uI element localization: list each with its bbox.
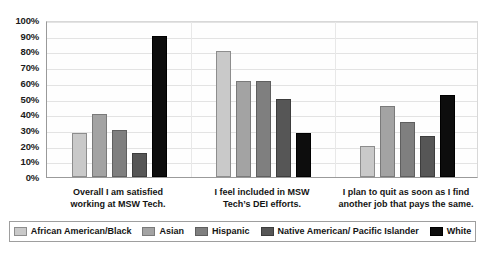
bar-group [47, 22, 191, 177]
legend-item[interactable]: Hispanic [195, 227, 250, 236]
legend-swatch-icon [430, 227, 443, 236]
bar [256, 81, 271, 177]
legend-label: Asian [159, 227, 184, 236]
legend-swatch-icon [195, 227, 208, 236]
bar [216, 51, 231, 177]
category-label-line: I plan to quit as soon as I find [334, 186, 478, 198]
bar [72, 133, 87, 177]
bar-group [191, 22, 335, 177]
legend-item[interactable]: Asian [142, 227, 184, 236]
legend-item[interactable]: African American/Black [14, 227, 132, 236]
bar [132, 153, 147, 177]
bar [92, 114, 107, 177]
legend-label: White [447, 227, 472, 236]
y-axis-tick-label: 0% [0, 173, 39, 183]
legend-swatch-icon [14, 227, 27, 236]
bar [440, 95, 455, 177]
legend-item[interactable]: Native American/ Pacific Islander [261, 227, 419, 236]
category-label: I feel included in MSWTech’s DEI efforts… [190, 186, 334, 210]
legend-label: Hispanic [212, 227, 250, 236]
bar [296, 133, 311, 177]
y-axis-tick-label: 10% [0, 158, 39, 168]
plot-wrapper: 0%10%20%30%40%50%60%70%80%90%100% [0, 16, 486, 184]
chart-legend: African American/BlackAsianHispanicNativ… [9, 221, 476, 242]
legend-item[interactable]: White [430, 227, 472, 236]
category-label-line: Overall I am satisfied [46, 186, 190, 198]
legend-swatch-icon [261, 227, 274, 236]
bar [420, 136, 435, 177]
category-label-line: Tech’s DEI efforts. [190, 198, 334, 210]
bar [236, 81, 251, 177]
y-axis-tick-label: 20% [0, 142, 39, 152]
bar [360, 146, 375, 177]
y-axis-tick-label: 30% [0, 126, 39, 136]
y-axis-tick-label: 60% [0, 79, 39, 89]
y-axis-tick-label: 70% [0, 63, 39, 73]
y-axis-tick-label: 80% [0, 48, 39, 58]
bar [152, 36, 167, 177]
y-axis-tick-label: 40% [0, 110, 39, 120]
legend-label: Native American/ Pacific Islander [278, 227, 419, 236]
y-axis-tick-label: 50% [0, 95, 39, 105]
category-label-line: I feel included in MSW [190, 186, 334, 198]
category-label: I plan to quit as soon as I findanother … [334, 186, 478, 210]
y-axis: 0%10%20%30%40%50%60%70%80%90%100% [0, 16, 44, 178]
y-axis-tick-label: 90% [0, 32, 39, 42]
bar [112, 130, 127, 177]
y-axis-tick-label: 100% [0, 16, 39, 26]
category-label: Overall I am satisfiedworking at MSW Tec… [46, 186, 190, 210]
bar [276, 99, 291, 178]
bar-chart: 0%10%20%30%40%50%60%70%80%90%100% Overal… [0, 0, 486, 254]
category-label-line: working at MSW Tech. [46, 198, 190, 210]
bar [400, 122, 415, 177]
legend-label: African American/Black [31, 227, 132, 236]
bar-group [335, 22, 479, 177]
legend-swatch-icon [142, 227, 155, 236]
bar [380, 106, 395, 177]
category-label-line: another job that pays the same. [334, 198, 478, 210]
plot-area [46, 21, 478, 178]
category-axis-labels: Overall I am satisfiedworking at MSW Tec… [46, 186, 478, 216]
